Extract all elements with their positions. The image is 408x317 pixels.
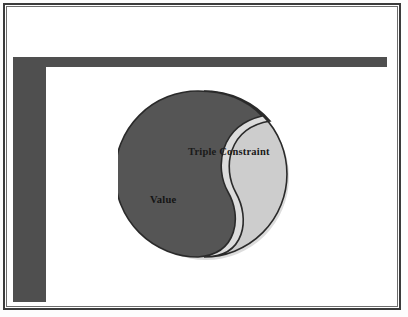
yin-yang-diagram bbox=[118, 88, 290, 262]
yin-yang-svg bbox=[118, 88, 290, 262]
top-accent-bar bbox=[13, 57, 387, 67]
slide-canvas: Triple Constraint Value bbox=[0, 0, 408, 317]
left-accent-bar bbox=[13, 57, 46, 302]
label-triple-constraint: Triple Constraint bbox=[188, 146, 270, 157]
label-value: Value bbox=[150, 194, 176, 205]
